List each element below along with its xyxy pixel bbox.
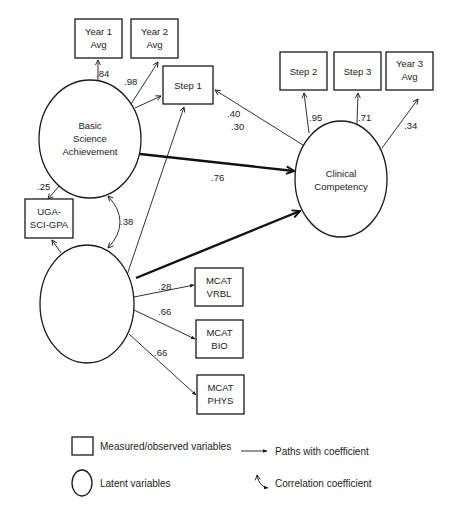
node-basic-science-achievement: Basic Science Achievement — [39, 80, 141, 198]
node-label: Avg — [401, 71, 417, 82]
path-bsa-s1 — [135, 96, 161, 108]
node-uga-sci-gpa: UGA- SCI-GPA — [25, 199, 73, 238]
coef-mv: .28 — [158, 281, 171, 292]
node-step2: Step 2 — [280, 52, 327, 90]
node-step3: Step 3 — [334, 52, 381, 90]
coef-bsa-cc: .76 — [211, 172, 224, 183]
legend-paths-label: Paths with coefficient — [275, 446, 369, 457]
legend-correlation-label: Correlation coefficient — [275, 478, 372, 489]
coef-mp: .66 — [154, 347, 167, 358]
node-label: Step 1 — [174, 80, 201, 91]
path-amsmp — [129, 334, 196, 395]
node-label: Year 1 — [85, 26, 112, 37]
coef-correlation: .38 — [120, 216, 133, 227]
node-label: Clinical — [326, 168, 357, 179]
node-mcat-vrbl: MCAT VRBL — [195, 268, 243, 306]
node-year2-avg: Year 2 Avg — [131, 19, 178, 58]
path-amsuga — [52, 240, 61, 253]
coef-s1-b: .30 — [231, 121, 244, 132]
coef-s3: .71 — [358, 112, 371, 123]
coef-y2: .98 — [124, 76, 137, 87]
node-label: Year 3 — [396, 58, 423, 69]
node-label: Basic — [78, 120, 101, 131]
node-clinical-competency: Clinical Competency — [295, 121, 387, 237]
node-label: BIO — [211, 340, 227, 351]
node-label: PHYS — [208, 395, 234, 406]
node-label: Year 2 — [141, 26, 168, 37]
node-label: MCAT — [206, 327, 232, 338]
correlation-arc — [108, 196, 120, 248]
node-label: Achievement — [63, 146, 118, 157]
coef-bsa-uga: .25 — [37, 181, 50, 192]
node-label: MCAT — [206, 275, 232, 286]
node-label: Competency — [314, 181, 368, 192]
node-label: Avg — [146, 39, 162, 50]
node-label: SCI-GPA — [30, 219, 69, 230]
coef-y3: .34 — [404, 120, 417, 131]
coef-mb: .66 — [158, 306, 171, 317]
node-label: MCAT — [207, 382, 233, 393]
node-step1: Step 1 — [163, 66, 213, 104]
legend-square-icon — [72, 437, 93, 455]
node-label: UGA- — [37, 206, 61, 217]
coef-y1: .84 — [96, 68, 109, 79]
node-label: Step 3 — [344, 66, 371, 77]
coef-s2: .95 — [309, 112, 322, 123]
legend-ellipse-icon — [72, 470, 92, 496]
legend-latent-label: Latent variables — [100, 478, 171, 489]
node-label: Step 2 — [290, 66, 317, 77]
node-year1-avg: Year 1 Avg — [75, 19, 122, 58]
coef-s1-a: .40 — [227, 108, 240, 119]
node-mcat-phys: MCAT PHYS — [197, 375, 244, 414]
sem-diagram: .84 .98 .40 .30 .95 .71 .34 .76 .25 .38 … — [0, 0, 455, 512]
node-label: VRBL — [207, 288, 232, 299]
node-label: Avg — [90, 39, 106, 50]
legend: Measured/observed variables Latent varia… — [72, 437, 372, 496]
node-aptitude-for-medical-school — [40, 245, 134, 363]
legend-correlation-icon — [257, 475, 268, 488]
legend-measured-label: Measured/observed variables — [100, 441, 231, 452]
node-mcat-bio: MCAT BIO — [196, 320, 243, 358]
node-label: Science — [73, 133, 107, 144]
node-year3-avg: Year 3 Avg — [386, 52, 433, 90]
